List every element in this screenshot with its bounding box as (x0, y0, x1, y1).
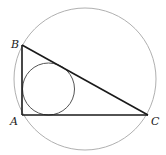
circumcircle (14, 8, 156, 150)
geometry-diagram: B A C (0, 0, 166, 155)
vertex-label-c: C (151, 115, 160, 128)
incircle (23, 63, 75, 115)
side-bc-hypotenuse (22, 45, 148, 115)
vertex-label-a: A (9, 115, 18, 128)
vertex-label-b: B (10, 38, 19, 51)
